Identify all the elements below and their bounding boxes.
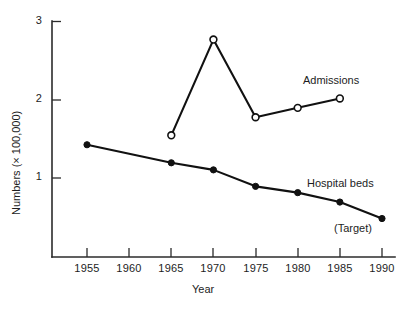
x-tick-label-1960: 1960 — [105, 262, 153, 274]
data-point-hospital-beds-1990 — [379, 215, 385, 221]
x-tick-label-1985: 1985 — [316, 262, 364, 274]
x-tick-label-1980: 1980 — [274, 262, 322, 274]
y-tick-label-1: 1 — [24, 170, 42, 182]
data-point-hospital-beds-1975 — [252, 183, 258, 189]
data-point-admissions-1970 — [210, 36, 217, 43]
series-label-admissions: Admissions — [303, 74, 359, 86]
data-point-admissions-1965 — [168, 132, 175, 139]
y-axis-title: Numbers (× 100,000) — [10, 111, 22, 215]
data-point-hospital-beds-1965 — [168, 160, 174, 166]
data-point-hospital-beds-1955 — [84, 142, 90, 148]
data-point-hospital-beds-1980 — [295, 190, 301, 196]
series-layer — [84, 36, 385, 221]
y-tick-label-2: 2 — [24, 92, 42, 104]
y-tick-label-3: 3 — [24, 14, 42, 26]
x-tick-label-1965: 1965 — [147, 262, 195, 274]
data-point-admissions-1985 — [336, 95, 343, 102]
data-point-admissions-1975 — [252, 114, 259, 121]
x-tick-label-1990: 1990 — [358, 262, 406, 274]
x-tick-label-1955: 1955 — [63, 262, 111, 274]
annotation-target: (Target) — [334, 222, 372, 234]
x-tick-label-1975: 1975 — [232, 262, 280, 274]
x-tick-label-1970: 1970 — [189, 262, 237, 274]
x-axis-title: Year — [192, 283, 214, 295]
data-point-admissions-1980 — [294, 104, 301, 111]
series-label-hospital-beds: Hospital beds — [307, 177, 374, 189]
data-point-hospital-beds-1970 — [210, 167, 216, 173]
chart-figure: 3 2 1 1955 1960 1965 1970 1975 1980 1985… — [0, 0, 414, 309]
data-point-hospital-beds-1985 — [337, 199, 343, 205]
